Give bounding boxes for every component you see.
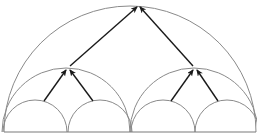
semicircle-leaf-0	[3, 100, 67, 132]
semicircle-leaf-2	[131, 100, 195, 132]
semicircle-leaf-3	[195, 100, 257, 132]
semicircle-tree-diagram	[0, 0, 257, 139]
semicircle-root-0	[4, 6, 256, 132]
arrow-3	[70, 70, 93, 101]
arrow-4	[171, 70, 193, 101]
arrow-2	[44, 70, 66, 101]
semicircle-leaf-1	[68, 100, 132, 132]
diagram-svg	[0, 0, 257, 139]
arrow-1	[140, 7, 193, 66]
arrow-5	[197, 70, 218, 101]
arcs-layer	[2, 6, 257, 132]
